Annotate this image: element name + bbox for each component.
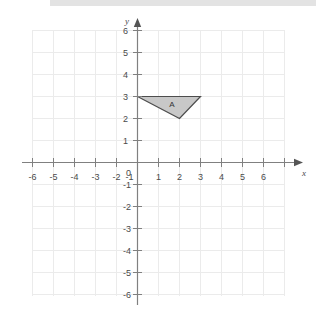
- y-tick-label: -4: [123, 246, 131, 256]
- x-tick-label: 5: [240, 172, 245, 182]
- x-tick-label: -6: [28, 172, 36, 182]
- graph-svg: A -6: [0, 0, 316, 324]
- x-tick-label: 6: [261, 172, 266, 182]
- origin-label: 0: [126, 168, 131, 178]
- y-axis-name: y: [124, 16, 129, 26]
- x-tick-label: 1: [156, 172, 161, 182]
- x-axis-name: x: [301, 168, 306, 178]
- x-tick-label: 4: [219, 172, 224, 182]
- y-tick-label: -1: [123, 180, 131, 190]
- x-tick-label: -2: [112, 172, 120, 182]
- x-tick-label: -5: [49, 172, 57, 182]
- x-tick-label: -4: [70, 172, 78, 182]
- x-axis: [22, 159, 303, 166]
- y-tick-label: 2: [123, 114, 128, 124]
- coordinate-plane: A -6: [0, 0, 316, 324]
- x-axis-tick-labels: -6 -5 -4 -3 -2 -1 1 2 3 4 5 6: [28, 172, 266, 182]
- y-tick-label: 5: [123, 48, 128, 58]
- x-tick-label: 3: [198, 172, 203, 182]
- y-tick-label: -5: [123, 268, 131, 278]
- y-axis: [134, 18, 141, 305]
- y-tick-label: 4: [123, 70, 128, 80]
- triangle-shape-a: A: [138, 97, 201, 119]
- x-tick-label: -3: [91, 172, 99, 182]
- x-tick-label: 2: [177, 172, 182, 182]
- y-tick-label: -6: [123, 290, 131, 300]
- triangle-a-label: A: [169, 100, 175, 109]
- y-axis-arrow-icon: [134, 18, 141, 27]
- y-tick-label: 1: [123, 136, 128, 146]
- y-tick-label: 3: [123, 92, 128, 102]
- x-axis-arrow-icon: [294, 159, 303, 166]
- y-tick-label: -3: [123, 224, 131, 234]
- y-tick-label: 6: [123, 26, 128, 36]
- y-tick-label: -2: [123, 202, 131, 212]
